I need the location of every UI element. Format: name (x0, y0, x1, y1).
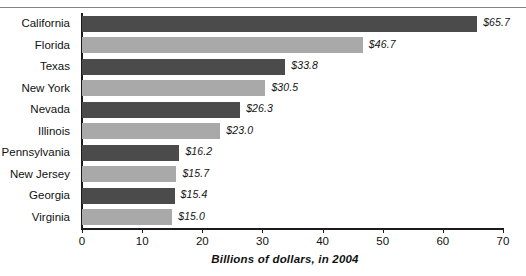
bar-row: $46.7 (82, 35, 503, 57)
bar-value-label: $26.3 (246, 102, 273, 114)
bar-georgia[interactable] (82, 188, 175, 204)
bar-row: $33.8 (82, 56, 503, 78)
bar-row: $65.7 (82, 13, 503, 35)
category-label-nevada: Nevada (30, 99, 70, 121)
category-label-california: California (21, 13, 70, 35)
x-tick-label: 0 (79, 235, 85, 247)
category-label-illinois: Illinois (38, 121, 70, 143)
bar-row: $15.0 (82, 207, 503, 229)
bar-pennsylvania[interactable] (82, 145, 179, 161)
x-tick-label: 10 (136, 235, 149, 247)
x-tick-label: 40 (316, 235, 329, 247)
category-label-texas: Texas (40, 56, 70, 78)
bar-nevada[interactable] (82, 102, 240, 118)
x-tick-label: 60 (436, 235, 449, 247)
bar-value-label: $33.8 (291, 59, 318, 71)
category-label-new-jersey: New Jersey (10, 164, 70, 186)
bar-value-label: $16.2 (185, 145, 212, 157)
x-tick (82, 228, 83, 233)
x-axis-title: Billions of dollars, in 2004 (0, 253, 526, 265)
x-tick (503, 228, 504, 233)
bar-row: $15.7 (82, 164, 503, 186)
bar-value-label: $15.4 (181, 188, 208, 200)
bar-value-label: $15.7 (182, 167, 209, 179)
category-label-group: CaliforniaFloridaTexasNew YorkNevadaIlli… (0, 13, 76, 228)
bar-row: $26.3 (82, 99, 503, 121)
x-axis-title-text: Billions of dollars, in 2004 (211, 253, 358, 265)
bar-value-label: $46.7 (369, 38, 396, 50)
x-tick (323, 228, 324, 233)
x-tick (383, 228, 384, 233)
x-axis-line (81, 228, 504, 230)
x-tick-label: 20 (196, 235, 209, 247)
bar-value-label: $30.5 (271, 81, 298, 93)
bar-texas[interactable] (82, 59, 285, 75)
bar-row: $23.0 (82, 121, 503, 143)
category-label-new-york: New York (21, 78, 70, 100)
bar-florida[interactable] (82, 37, 363, 53)
x-tick-label: 30 (256, 235, 269, 247)
bar-new-jersey[interactable] (82, 166, 176, 182)
category-label-pennsylvania: Pennsylvania (2, 142, 70, 164)
bar-row: $30.5 (82, 78, 503, 100)
bar-value-label: $23.0 (226, 124, 253, 136)
plot-area: $65.7$46.7$33.8$30.5$26.3$23.0$16.2$15.7… (82, 13, 503, 228)
bar-value-label: $15.0 (178, 210, 205, 222)
x-tick (262, 228, 263, 233)
bar-california[interactable] (82, 16, 477, 32)
bar-row: $15.4 (82, 185, 503, 207)
bar-row: $16.2 (82, 142, 503, 164)
bar-virginia[interactable] (82, 209, 172, 225)
category-label-georgia: Georgia (29, 185, 70, 207)
bar-illinois[interactable] (82, 123, 220, 139)
bar-value-label: $65.7 (483, 16, 510, 28)
x-tick-label: 50 (376, 235, 389, 247)
category-label-florida: Florida (35, 35, 70, 57)
bar-new-york[interactable] (82, 80, 265, 96)
x-tick (142, 228, 143, 233)
x-tick (202, 228, 203, 233)
horizontal-bar-chart: CaliforniaFloridaTexasNew YorkNevadaIlli… (0, 0, 526, 276)
x-tick (443, 228, 444, 233)
x-tick-label: 70 (497, 235, 510, 247)
category-label-virginia: Virginia (32, 207, 70, 229)
